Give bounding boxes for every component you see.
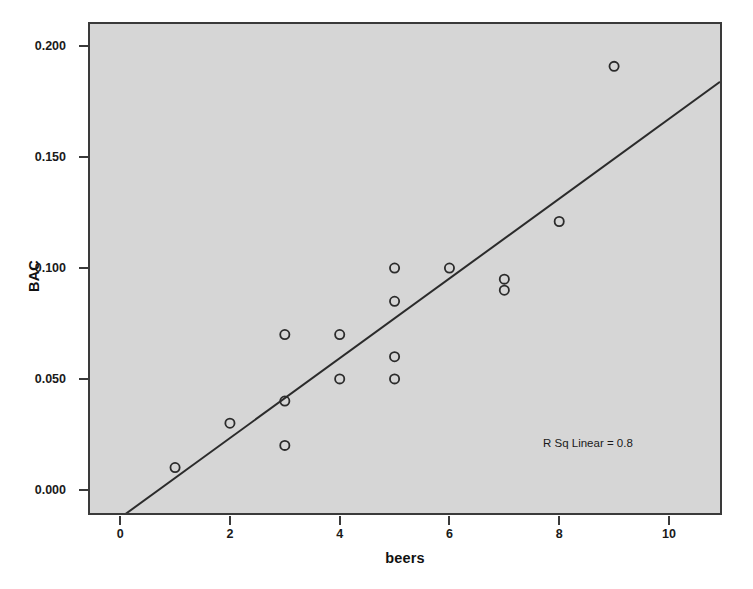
y-tick-label: 0.000 <box>0 483 78 497</box>
data-point <box>280 441 289 450</box>
x-tick-label: 4 <box>320 527 360 541</box>
y-tick-label: 0.200 <box>0 39 78 53</box>
y-axis-title: BAC <box>26 236 42 316</box>
data-point <box>390 352 399 361</box>
y-tick-mark <box>79 156 88 158</box>
y-tick-label: 0.100 <box>0 261 78 275</box>
x-tick-mark <box>448 516 450 525</box>
y-tick-label: 0.050 <box>0 372 78 386</box>
x-tick-mark <box>119 516 121 525</box>
data-point <box>390 374 399 383</box>
data-point <box>609 62 618 71</box>
y-tick-label: 0.150 <box>0 150 78 164</box>
data-point <box>555 217 564 226</box>
y-tick-mark <box>79 267 88 269</box>
r-squared-annotation: R Sq Linear = 0.8 <box>543 437 633 449</box>
data-point <box>500 286 509 295</box>
x-tick-label: 0 <box>100 527 140 541</box>
data-point <box>500 275 509 284</box>
x-axis-title: beers <box>88 550 722 566</box>
x-tick-label: 10 <box>649 527 689 541</box>
x-tick-mark <box>668 516 670 525</box>
data-point <box>335 330 344 339</box>
y-tick-mark <box>79 378 88 380</box>
x-tick-label: 2 <box>210 527 250 541</box>
data-point <box>280 330 289 339</box>
data-point <box>390 263 399 272</box>
scatter-chart-figure: BAC 0.0000.0500.1000.1500.200 R Sq Linea… <box>0 0 753 589</box>
data-point <box>335 374 344 383</box>
y-tick-mark <box>79 489 88 491</box>
data-point <box>170 463 179 472</box>
y-tick-mark <box>79 45 88 47</box>
data-point <box>390 297 399 306</box>
x-tick-mark <box>229 516 231 525</box>
x-tick-mark <box>339 516 341 525</box>
x-tick-label: 8 <box>539 527 579 541</box>
x-tick-label: 6 <box>429 527 469 541</box>
x-tick-mark <box>558 516 560 525</box>
data-point <box>445 263 454 272</box>
data-points <box>170 62 618 472</box>
data-point <box>225 419 234 428</box>
